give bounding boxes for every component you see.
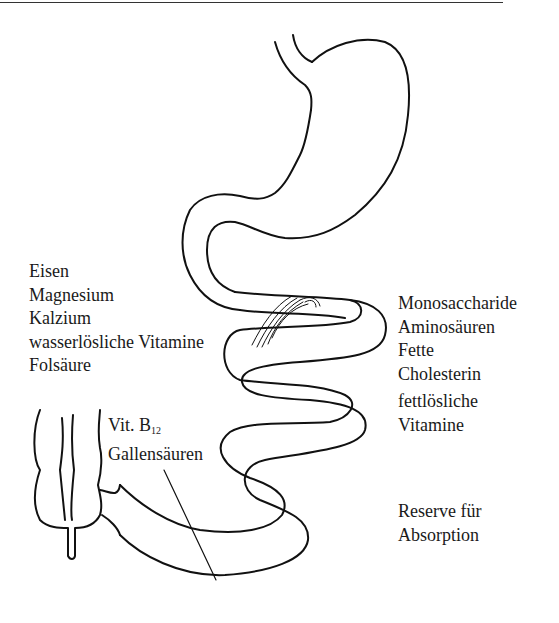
right-labels: Monosaccharide Aminosäuren Fette Cholest… xyxy=(398,292,517,386)
mesentery-strands xyxy=(252,296,320,347)
label-folsaeure: Folsäure xyxy=(29,354,204,378)
label-kalzium: Kalzium xyxy=(29,307,204,331)
label-fettloesliche: fettlösliche xyxy=(398,390,478,414)
label-absorption: Absorption xyxy=(398,524,481,548)
label-aminosaeuren: Aminosäuren xyxy=(398,316,517,340)
label-vit-b12: Vit. B12 xyxy=(108,414,203,443)
left-labels: Eisen Magnesium Kalzium wasserlösliche V… xyxy=(29,260,204,378)
label-gallensaeuren: Gallensäuren xyxy=(108,443,203,467)
stomach xyxy=(183,40,410,310)
label-monosaccharide: Monosaccharide xyxy=(398,292,517,316)
reserve-labels: Reserve für Absorption xyxy=(398,500,481,547)
ileum-labels: Vit. B12 Gallensäuren xyxy=(108,414,203,466)
esophagus xyxy=(275,35,312,110)
pointer-line xyxy=(164,470,216,580)
label-reserve-fuer: Reserve für xyxy=(398,500,481,524)
label-magnesium: Magnesium xyxy=(29,284,204,308)
label-eisen: Eisen xyxy=(29,260,204,284)
label-cholesterin: Cholesterin xyxy=(398,363,517,387)
right-labels-fat-soluble: fettlösliche Vitamine xyxy=(398,390,478,437)
label-wasserloesliche-vitamine: wasserlösliche Vitamine xyxy=(29,331,204,355)
label-fette: Fette xyxy=(398,339,517,363)
label-vitamine: Vitamine xyxy=(398,414,478,438)
